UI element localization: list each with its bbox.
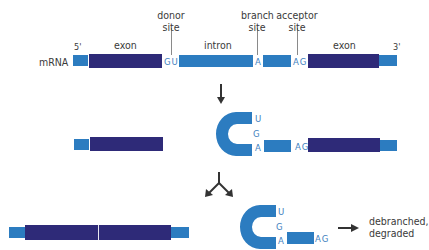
lariat-shape [216, 112, 254, 156]
five-prime-utr [73, 55, 88, 66]
right-arrow-icon [338, 223, 360, 233]
lariat-tail [264, 140, 291, 152]
exon-2 [308, 54, 379, 68]
three-prime-utr [379, 55, 397, 66]
intron-segment-1 [179, 55, 253, 67]
intron-label: intron [204, 40, 232, 51]
three-prime-label: 3' [393, 43, 400, 52]
lariat-letter-u: U [278, 207, 285, 217]
donor-site-sequence: GU [164, 57, 179, 67]
excised-lariat-shape [240, 205, 278, 249]
three-prime-utr [380, 140, 397, 151]
five-prime-utr [74, 139, 89, 150]
exon-2 [308, 138, 380, 152]
mrna-label: mRNA [39, 57, 68, 68]
acceptor-site-label: acceptor site [276, 10, 318, 33]
down-arrow-icon [216, 84, 226, 106]
exon2-label: exon [333, 40, 356, 51]
spliced-exon-2 [99, 225, 171, 240]
five-prime-utr [9, 227, 25, 238]
lariat-letter-a: A [278, 236, 285, 246]
acceptor-site-sequence: AG [315, 234, 329, 244]
five-prime-label: 5' [74, 43, 81, 52]
split-arrow-icon [204, 172, 234, 198]
branch-site-label: branch site [241, 10, 273, 33]
three-prime-utr [171, 227, 189, 238]
free-exon-1 [90, 137, 163, 151]
branch-site-sequence: A [255, 57, 262, 67]
lariat-letter-g: G [253, 129, 261, 139]
acceptor-site-sequence: AG [293, 57, 307, 67]
exon1-label: exon [114, 40, 137, 51]
lariat-letter-u: U [255, 114, 262, 124]
lariat-letter-g: G [276, 222, 284, 232]
lariat-tail [287, 232, 314, 244]
fate-label: debranched, degraded [369, 215, 428, 239]
exon-1 [89, 54, 162, 68]
intron-segment-2 [263, 55, 291, 67]
donor-site-label: donor site [155, 10, 187, 33]
lariat-letter-a: A [255, 143, 262, 153]
spliced-exon-1 [25, 225, 98, 240]
